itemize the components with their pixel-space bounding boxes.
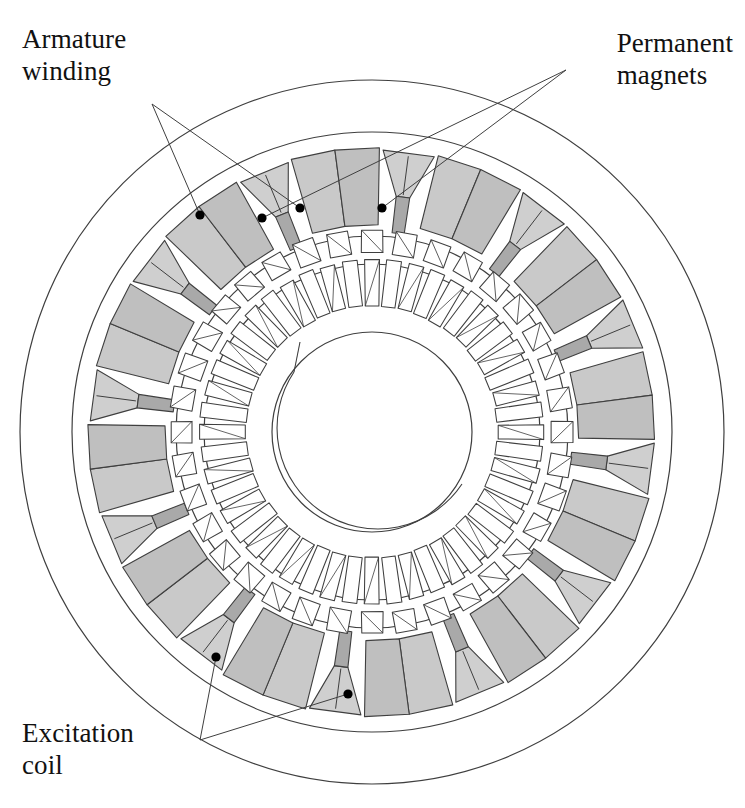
magnet-dot-b <box>377 203 386 212</box>
magnet-wedge-stem <box>152 503 189 528</box>
stator-slot-bar <box>361 230 383 252</box>
rotor-tooth <box>200 402 248 422</box>
armature-coil-block <box>88 425 174 513</box>
rotor-tooth <box>498 425 544 440</box>
stator-slot-bar <box>172 452 197 477</box>
magnet-wedge-stem <box>554 336 592 361</box>
rotor-tooth <box>201 442 248 462</box>
excitation-leader-2 <box>200 694 348 740</box>
stator-slot-bar <box>392 232 417 259</box>
stator-slot-bar <box>453 252 483 282</box>
figure-canvas: Armature winding Permanent magnets Excit… <box>0 0 745 808</box>
rotor-tooth-outline <box>495 441 543 461</box>
machine-cross-section <box>0 0 745 808</box>
rotor-tooth <box>495 441 543 461</box>
armature-coil-block <box>420 156 520 254</box>
stator-slot-bar <box>171 421 192 443</box>
stator-slot-bar <box>178 353 208 381</box>
stator-slot-bar <box>234 562 265 593</box>
rotor-tooth <box>364 557 379 604</box>
magnets-leader-2 <box>262 70 566 218</box>
rotor-tooth <box>342 556 362 604</box>
rotor-tooth <box>365 260 380 306</box>
stator-slot-bar <box>292 597 320 626</box>
magnet-wedge-stem <box>334 630 351 667</box>
label-permanent-magnets: Permanent magnets <box>617 28 733 92</box>
stator-slot-bar <box>551 421 573 443</box>
armature-coil-block <box>570 352 655 440</box>
rotor-tooth <box>382 556 402 604</box>
stator-slot-bar <box>170 386 196 411</box>
stator-slot-bar <box>235 271 265 301</box>
excitation-dot-b <box>343 689 352 698</box>
magnet-wedge-stem <box>181 283 217 315</box>
rotor-tooth-outline <box>342 260 362 307</box>
magnet-wedge-stem <box>392 196 410 234</box>
excitation-dot-a <box>211 652 220 661</box>
stator-slot-bar <box>523 513 551 542</box>
rotor-tooth-outline <box>381 260 401 308</box>
rotor-tooth <box>200 424 246 439</box>
stator-slot-bar <box>193 322 223 352</box>
rotor-bore <box>272 332 472 532</box>
magnet-wedge-head <box>90 370 139 421</box>
stator-slot-bar <box>212 295 241 324</box>
stator-slot-bar <box>327 607 352 633</box>
rotor-tooth <box>381 260 401 308</box>
magnet-wedge-stem <box>570 452 608 470</box>
stator-slot-bar <box>478 562 509 593</box>
stator-slot-bar <box>361 612 383 633</box>
magnet-wedge-stem <box>490 241 521 276</box>
armature-coil-block <box>291 148 379 234</box>
armature-dot-a <box>195 210 204 219</box>
label-armature-winding: Armature winding <box>22 24 126 88</box>
armature-dot-b <box>295 203 304 212</box>
stator-slot-bar <box>547 387 573 412</box>
stator-slot-bar <box>327 231 352 258</box>
rotor-tooth-outline <box>382 556 402 604</box>
rotor-tooth-outline <box>342 556 362 604</box>
stator-slot-bar <box>453 583 481 611</box>
stator-slot-bar <box>522 322 551 351</box>
stator-slot-bar <box>538 483 567 511</box>
rotor-tooth-outline <box>201 442 248 462</box>
shaft-bore-circle <box>272 332 472 532</box>
label-excitation-coil: Excitation coil <box>22 718 134 782</box>
magnet-wedge-stem <box>137 394 175 412</box>
stator-slot-bar <box>503 539 533 569</box>
stator-slot-bar <box>392 609 417 634</box>
excitation-leader-1 <box>200 657 216 740</box>
stator-slot-bar <box>547 453 572 478</box>
armature-coil-block <box>365 632 453 717</box>
magnet-wedge-head <box>606 443 655 494</box>
rotor-tooth-outline <box>200 402 248 422</box>
rotor-tooth <box>342 260 362 307</box>
stator-slot-bar <box>480 272 510 302</box>
stator-slot-bar <box>193 513 223 542</box>
magnet-wedge-head <box>310 666 361 715</box>
stator-slot-bar <box>262 582 291 611</box>
magnet-dot-a <box>257 213 266 222</box>
